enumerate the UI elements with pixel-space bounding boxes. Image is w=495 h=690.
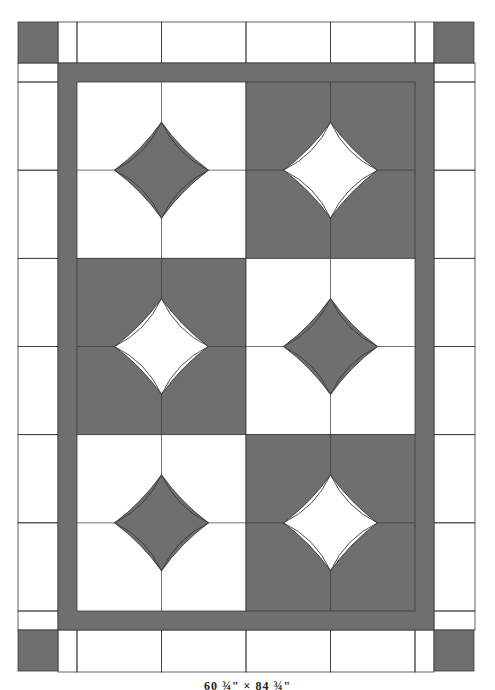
corner-square [18, 22, 58, 63]
quilt-diagram [0, 0, 495, 690]
corner-square [18, 630, 58, 671]
quilt-caption: 60 ¾" × 84 ¾" [0, 679, 495, 690]
corner-square [434, 630, 474, 671]
corner-square [434, 22, 474, 63]
